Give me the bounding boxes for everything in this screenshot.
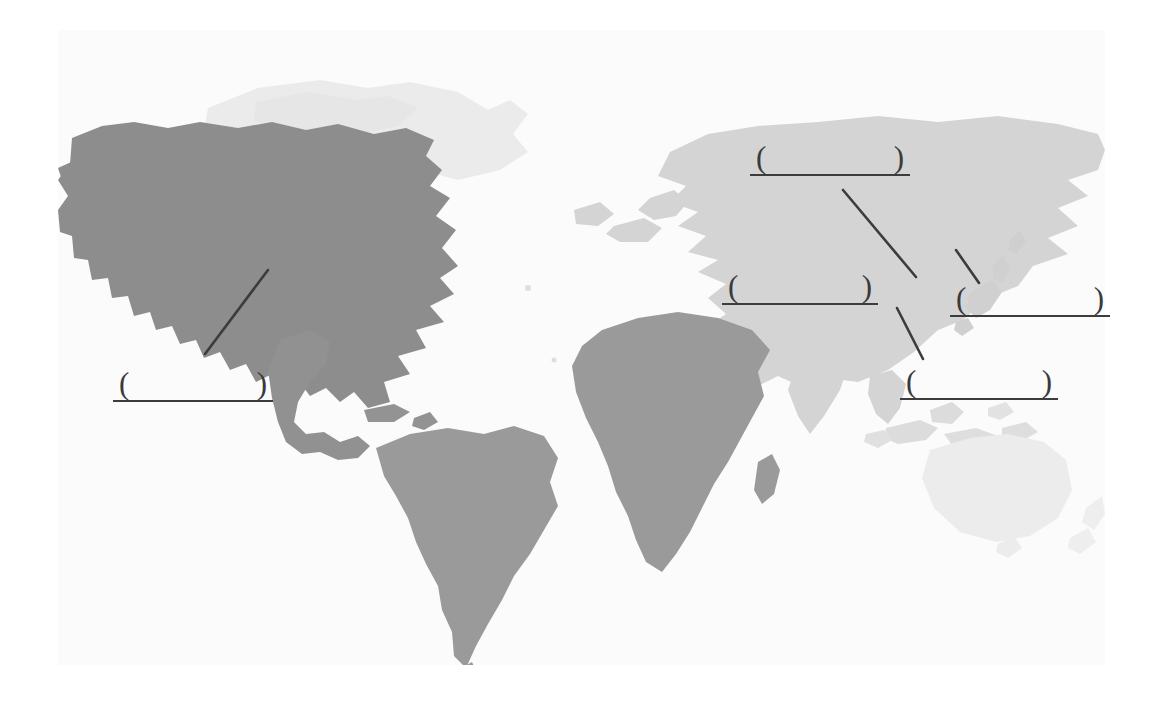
paren-close-icon: ) [1042,366,1052,397]
paren-row: ( ) [900,366,1058,396]
blank-field-north-eurasia[interactable]: ( ) [750,142,910,176]
blank-field-japan[interactable]: ( ) [950,283,1110,317]
worksheet-page: ( ) ( ) ( ) ( [0,0,1168,713]
blank-field-north-america[interactable]: ( ) [113,368,273,402]
answer-underline[interactable] [750,174,910,176]
paren-open-icon: ( [728,271,738,302]
paren-row: ( ) [750,142,910,172]
paren-row: ( ) [950,283,1110,313]
paren-open-icon: ( [756,142,766,173]
paren-open-icon: ( [119,368,129,399]
paren-close-icon: ) [894,142,904,173]
paren-close-icon: ) [1094,283,1104,314]
paren-open-icon: ( [956,283,966,314]
leader-line-blank-2 [843,190,916,277]
answer-underline[interactable] [722,303,878,305]
answer-underline[interactable] [950,315,1110,317]
paren-close-icon: ) [257,368,267,399]
leader-lines [0,0,1168,713]
paren-row: ( ) [722,271,878,301]
blank-field-china[interactable]: ( ) [722,271,878,305]
paren-row: ( ) [113,368,273,398]
blank-field-southeast-asia[interactable]: ( ) [900,366,1058,400]
answer-underline[interactable] [900,398,1058,400]
paren-close-icon: ) [862,271,872,302]
leader-line-blank-5 [897,308,923,359]
answer-underline[interactable] [113,400,273,402]
paren-open-icon: ( [906,366,916,397]
leader-line-blank-4 [956,250,979,283]
leader-line-blank-1 [205,270,268,354]
